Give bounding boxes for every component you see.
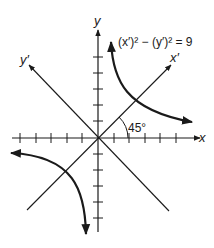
diagram-canvas: y x y′ x′ (x′)² − (y′)² = 9 45° [0,0,214,248]
x-axis [12,133,200,143]
hyperbola-branch-upper [111,42,192,122]
y-prime-label: y′ [19,52,30,67]
x-prime-label: x′ [169,50,180,65]
hyperbola-branch-lower [11,153,86,234]
angle-arc [119,117,128,138]
hyperbola-diagram: y x y′ x′ (x′)² − (y′)² = 9 45° [0,0,214,248]
y-axis [93,30,103,232]
equation-label: (x′)² − (y′)² = 9 [118,35,193,49]
y-axis-label: y [93,13,102,28]
x-axis-label: x [198,130,206,145]
angle-label: 45° [128,121,146,135]
